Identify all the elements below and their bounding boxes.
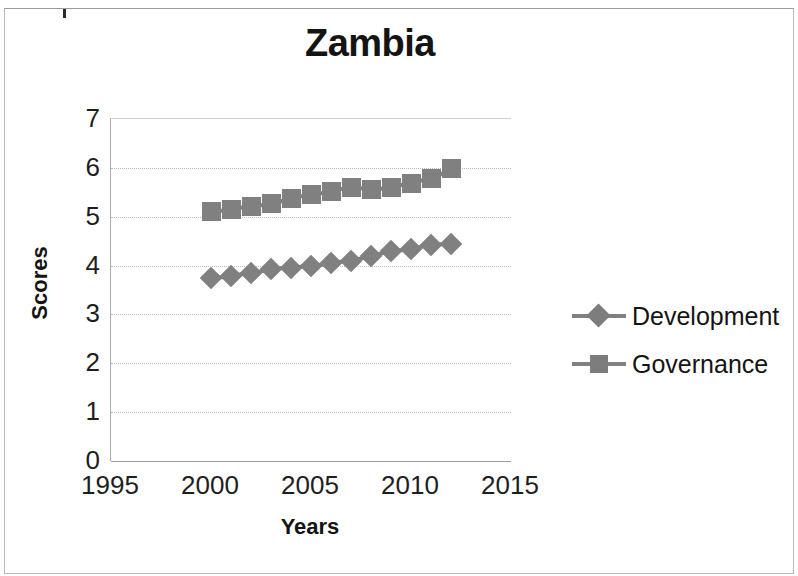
y-tick-label: 6 (60, 154, 100, 180)
data-point-marker (402, 174, 421, 193)
data-point-marker (200, 266, 223, 289)
chart-legend: DevelopmentGovernance (572, 292, 787, 388)
chart-figure: Zambia Scores 01234567 19952000200520102… (0, 0, 798, 576)
gridline (111, 412, 511, 413)
data-point-marker (382, 178, 401, 197)
y-tick-label: 4 (60, 252, 100, 278)
y-tick-label: 2 (60, 349, 100, 375)
data-point-marker (262, 194, 281, 213)
gridline (111, 363, 511, 364)
data-point-marker (440, 232, 463, 255)
x-tick-label: 2005 (260, 472, 360, 498)
x-tick-label: 2015 (460, 472, 560, 498)
data-point-marker (220, 265, 243, 288)
data-point-marker (320, 252, 343, 275)
data-point-marker (400, 238, 423, 261)
data-point-marker (442, 159, 461, 178)
data-point-marker (422, 169, 441, 188)
data-point-marker (380, 240, 403, 263)
data-point-marker (342, 178, 361, 197)
legend-label: Development (626, 302, 779, 331)
legend-entry-governance[interactable]: Governance (572, 340, 787, 388)
data-point-marker (420, 234, 443, 257)
data-point-marker (322, 182, 341, 201)
data-point-marker (300, 254, 323, 277)
data-point-marker (340, 249, 363, 272)
data-point-marker (242, 197, 261, 216)
data-point-marker (362, 180, 381, 199)
x-tick-label: 1995 (60, 472, 160, 498)
square-marker-icon (572, 351, 626, 377)
gridline (111, 217, 511, 218)
y-tick-label: 7 (60, 105, 100, 131)
x-axis-line (111, 461, 511, 462)
legend-label: Governance (626, 350, 768, 379)
x-tick-label: 2010 (360, 472, 460, 498)
data-point-marker (260, 258, 283, 281)
legend-entry-development[interactable]: Development (572, 292, 787, 340)
diamond-marker-icon (572, 303, 626, 329)
y-tick-label: 5 (60, 203, 100, 229)
y-tick-label: 3 (60, 300, 100, 326)
gridline (111, 314, 511, 315)
plot-area (110, 118, 511, 461)
data-point-marker (202, 202, 221, 221)
data-point-marker (302, 185, 321, 204)
data-point-marker (360, 244, 383, 267)
data-point-marker (222, 200, 241, 219)
x-axis-title: Years (110, 514, 510, 540)
x-axis-tick-labels: 19952000200520102015 (110, 472, 510, 506)
x-tick-label: 2000 (160, 472, 260, 498)
y-axis-tick-labels: 01234567 (45, 118, 100, 460)
chart-title: Zambia (160, 22, 580, 65)
data-point-marker (280, 257, 303, 280)
y-tick-label: 1 (60, 398, 100, 424)
data-point-marker (282, 189, 301, 208)
